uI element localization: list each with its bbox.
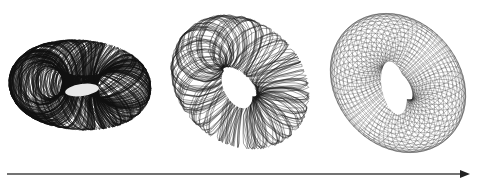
- torus-medium-image: [160, 0, 320, 168]
- progression-arrow: [0, 165, 478, 185]
- torus-dense-panel: [0, 0, 160, 168]
- torus-grid-panel: [318, 0, 478, 168]
- torus-dense-image: [0, 0, 160, 168]
- torus-medium-panel: [160, 0, 320, 168]
- arrow-head-icon: [460, 170, 470, 178]
- torus-grid-image: [318, 0, 478, 168]
